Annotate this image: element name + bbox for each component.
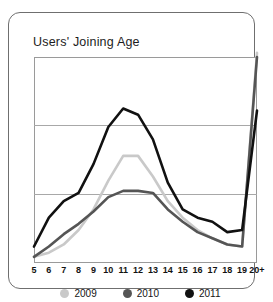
x-tick-8: 8 (76, 265, 81, 275)
x-tick-5: 5 (31, 265, 36, 275)
chart-screenshot: Users' Joining Age 567891011121314151617… (0, 0, 273, 302)
x-tick-12: 12 (133, 265, 143, 275)
legend-label: 2010 (137, 288, 159, 299)
chart-legend: 200920102011 (17, 283, 264, 302)
x-tick-6: 6 (46, 265, 51, 275)
legend-label: 2011 (199, 288, 221, 299)
legend-dot-icon (123, 289, 132, 298)
chart-card: Users' Joining Age 567891011121314151617… (8, 12, 255, 289)
x-tick-18: 18 (222, 265, 232, 275)
series-line-2010 (34, 57, 257, 257)
series-line-2009 (34, 53, 257, 257)
x-tick-15: 15 (178, 265, 188, 275)
x-tick-14: 14 (163, 265, 173, 275)
x-tick-19: 19 (237, 265, 247, 275)
x-tick-11: 11 (118, 265, 128, 275)
x-axis-ticks: 567891011121314151617181920+ (34, 265, 257, 279)
x-tick-20plus: 20+ (249, 265, 264, 275)
series-line-2011 (34, 109, 257, 247)
legend-label: 2009 (74, 288, 96, 299)
legend-dot-icon (60, 289, 69, 298)
x-tick-16: 16 (193, 265, 203, 275)
legend-item-2011[interactable]: 2011 (185, 288, 221, 299)
x-tick-7: 7 (61, 265, 66, 275)
series-lines (34, 57, 257, 263)
x-tick-13: 13 (148, 265, 158, 275)
plot-area (34, 57, 257, 263)
chart-title: Users' Joining Age (33, 35, 140, 49)
legend-dot-icon (185, 289, 194, 298)
x-tick-10: 10 (103, 265, 113, 275)
legend-item-2009[interactable]: 2009 (60, 288, 96, 299)
x-tick-17: 17 (207, 265, 217, 275)
x-tick-9: 9 (91, 265, 96, 275)
legend-item-2010[interactable]: 2010 (123, 288, 159, 299)
